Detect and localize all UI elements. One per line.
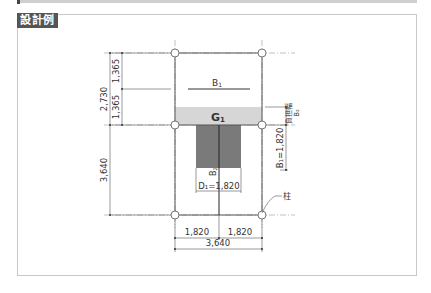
b1-label: B1 (212, 78, 222, 88)
dim-1820-right: 1,820 (228, 227, 252, 237)
column-icon (171, 49, 179, 57)
dim-2730: 2,730 (99, 87, 109, 111)
b2-label: B2 (209, 167, 218, 176)
column-icon (258, 49, 266, 57)
dim-b1-width: B₁=1,820 (275, 128, 285, 169)
dim-3640-horizontal: 3,640 (206, 238, 230, 248)
column-icon (258, 121, 266, 129)
structural-plan-diagram: B1 G1 B2 2,730 1,365 1,365 3,640 1,820 1… (0, 0, 431, 293)
dim-1365-lower: 1,365 (111, 95, 121, 119)
dim-3640-vertical: 3,640 (99, 158, 109, 182)
burden-width-label: 負担幅 (284, 103, 293, 124)
column-icon (258, 211, 266, 219)
column-label: 柱 (283, 191, 291, 201)
dim-d1: D₁=1,820 (198, 181, 239, 191)
column-icon (171, 121, 179, 129)
column-icon (171, 211, 179, 219)
dim-1820-left: 1,820 (185, 227, 209, 237)
burden-width-symbol: B₂ (293, 109, 301, 117)
column-leader-line (262, 196, 282, 213)
dim-1365-upper: 1,365 (111, 59, 121, 83)
